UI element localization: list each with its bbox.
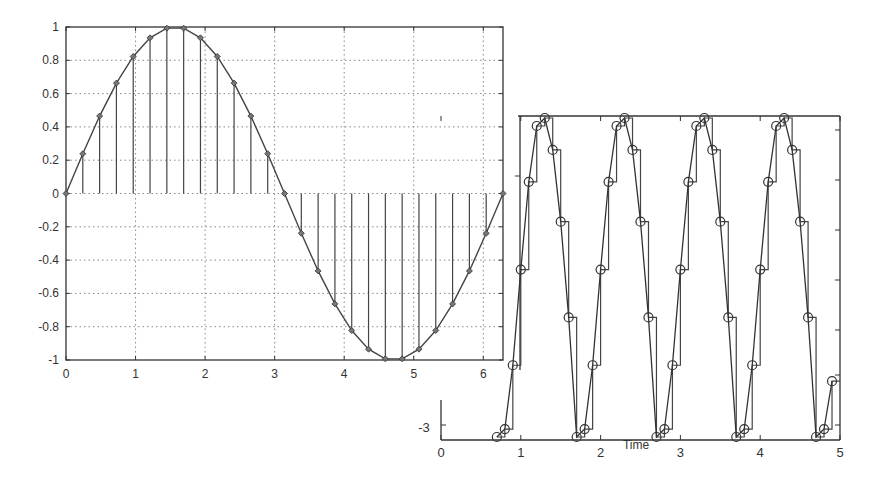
y-tick-label: 0.2	[42, 153, 59, 167]
y-tick-label: 1	[52, 20, 59, 34]
diamond-marker	[63, 191, 69, 197]
x-tick-label: 2	[597, 445, 604, 460]
y-tick-label: 0.8	[42, 53, 59, 67]
x-tick-label: 5	[836, 445, 843, 460]
diamond-marker	[500, 191, 506, 197]
x-tick-label: 3	[677, 445, 684, 460]
x-tick-label: 1	[517, 445, 524, 460]
x-tick-label: 0	[437, 445, 444, 460]
diamond-marker	[466, 268, 472, 274]
x-tick-label: 5	[410, 367, 417, 381]
x-tick-label: 6	[480, 367, 487, 381]
diamond-marker	[315, 268, 321, 274]
x-tick-label: 3	[271, 367, 278, 381]
right-staircase-line	[497, 118, 840, 437]
left-y-tick-labels: 10.80.60.40.20-0.2-0.4-0.6-0.8-1	[38, 20, 59, 367]
diamond-marker	[265, 151, 271, 157]
figure-canvas: 10.80.60.40.20-0.2-0.4-0.6-0.8-1 0123456…	[0, 0, 886, 478]
diamond-marker	[282, 191, 288, 197]
diamond-marker	[164, 25, 170, 31]
x-tick-label: 2	[202, 367, 209, 381]
x-tick-label: 4	[341, 367, 348, 381]
y-tick-label: 0.6	[42, 87, 59, 101]
y-tick-label: -0.8	[38, 320, 59, 334]
right-circle-markers	[492, 114, 836, 442]
y-tick-label: -0.4	[38, 253, 59, 267]
right-sample-line	[497, 118, 832, 437]
right-y-tick-label: -3	[418, 420, 430, 435]
right-x-axis-label: Time	[623, 438, 650, 452]
right-chart: 012345 -3 Time	[418, 114, 843, 461]
left-chart: 10.80.60.40.20-0.2-0.4-0.6-0.8-1 0123456	[38, 20, 506, 381]
diamond-marker	[399, 356, 405, 362]
left-x-tick-labels: 0123456	[63, 367, 487, 381]
y-tick-label: 0	[52, 187, 59, 201]
y-tick-label: -0.2	[38, 220, 59, 234]
x-tick-label: 0	[63, 367, 70, 381]
diamond-marker	[483, 230, 489, 236]
y-tick-label: -0.6	[38, 286, 59, 300]
diamond-marker	[298, 230, 304, 236]
diamond-marker	[248, 113, 254, 119]
diamond-marker	[382, 356, 388, 362]
diamond-marker	[80, 151, 86, 157]
y-tick-label: -1	[48, 353, 59, 367]
diamond-marker	[181, 25, 187, 31]
y-tick-label: 0.4	[42, 120, 59, 134]
diamond-marker	[97, 113, 103, 119]
x-tick-label: 4	[757, 445, 764, 460]
x-tick-label: 1	[132, 367, 139, 381]
